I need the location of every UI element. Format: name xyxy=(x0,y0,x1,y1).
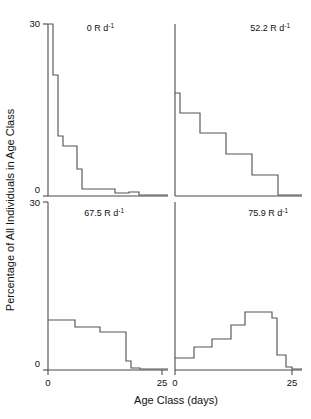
panel-0-ytick-label-30: 30 xyxy=(29,18,40,29)
panel-67-ytick-label-30: 30 xyxy=(29,197,40,208)
panel-67-xtick-label-25: 25 xyxy=(157,377,168,388)
panel-76-label: 75.9 R d-1 xyxy=(248,207,288,219)
panel-76-xtick-label-0: 0 xyxy=(172,377,177,388)
panel-67-ytick-label-0: 0 xyxy=(35,358,40,369)
figure-container: Percentage of All Individuals in Age Cla… xyxy=(0,0,311,419)
x-axis-title: Age Class (days) xyxy=(134,394,218,406)
y-axis-title: Percentage of All Individuals in Age Cla… xyxy=(4,108,16,311)
panel-76-xtick-label-25: 25 xyxy=(287,377,298,388)
panel-52-step-curve xyxy=(175,93,302,195)
panel-67-R: 30 0 0 25 67.5 R d-1 xyxy=(29,197,168,388)
age-class-distribution-figure: Percentage of All Individuals in Age Cla… xyxy=(0,0,311,419)
panel-52-label: 52.2 R d-1 xyxy=(250,22,290,34)
panel-67-label: 67.5 R d-1 xyxy=(84,207,124,219)
panel-0-step-curve xyxy=(48,24,168,195)
panel-52-R: 52.2 R d-1 xyxy=(175,22,302,197)
panel-67-step-curve xyxy=(48,320,168,369)
panel-0-label: 0 R d-1 xyxy=(87,22,115,34)
panel-0-R: 30 0 0 R d-1 xyxy=(29,18,168,196)
panel-67-xtick-label-0: 0 xyxy=(45,377,50,388)
panel-0-ytick-label-0: 0 xyxy=(35,184,40,195)
panel-76-step-curve xyxy=(175,312,302,369)
panel-76-R: 0 25 75.9 R d-1 xyxy=(172,202,302,388)
